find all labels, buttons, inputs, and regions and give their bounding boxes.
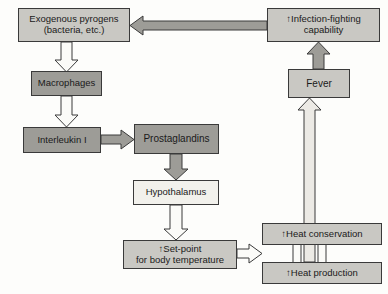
arrow-macrophages-to-interleukin [55,96,78,127]
node-prostaglandins-label: Prostaglandins [141,133,211,144]
node-heat-conservation[interactable]: ↑Heat conservation [262,223,382,245]
node-hypothalamus-label: Hypothalamus [144,187,209,198]
arrow-hypothalamus-to-setpoint [164,205,188,240]
fever-pathway-diagram: Exogenous pyrogens (bacteria, etc.) Macr… [0,0,388,294]
node-interleukin-1-label: Interleukin I [35,135,88,146]
node-heat-production[interactable]: ↑Heat production [262,262,382,284]
node-exogenous-pyrogens-label: Exogenous pyrogens (bacteria, etc.) [27,14,120,35]
node-heat-production-label: ↑Heat production [284,268,360,279]
node-set-point-label: ↑Set-point for body temperature [134,244,226,265]
node-fever[interactable]: Fever [288,69,350,98]
node-heat-conservation-label: ↑Heat conservation [279,229,364,240]
connector-heat-right-bridge [318,244,326,263]
node-interleukin-1[interactable]: Interleukin I [23,127,101,153]
connector-heat-left-bridge [293,244,301,263]
node-macrophages-label: Macrophages [36,78,98,89]
arrow-fever-to-infection-fighting [307,42,330,69]
node-set-point[interactable]: ↑Set-point for body temperature [123,240,237,269]
arrow-infection-fighting-to-pyrogens [130,16,267,35]
arrow-pyrogens-to-macrophages [55,42,78,72]
node-infection-fighting-label: ↑Infection-fighting capability [284,14,362,35]
arrow-prostaglandins-to-hypothalamus [164,154,188,180]
node-hypothalamus[interactable]: Hypothalamus [133,180,219,205]
arrow-setpoint-to-heat [237,244,262,263]
node-infection-fighting[interactable]: ↑Infection-fighting capability [267,8,380,42]
node-exogenous-pyrogens[interactable]: Exogenous pyrogens (bacteria, etc.) [18,8,130,42]
node-prostaglandins[interactable]: Prostaglandins [134,124,219,154]
node-fever-label: Fever [304,78,334,89]
node-macrophages[interactable]: Macrophages [31,71,102,96]
arrow-interleukin-to-prostaglandins [101,130,134,149]
